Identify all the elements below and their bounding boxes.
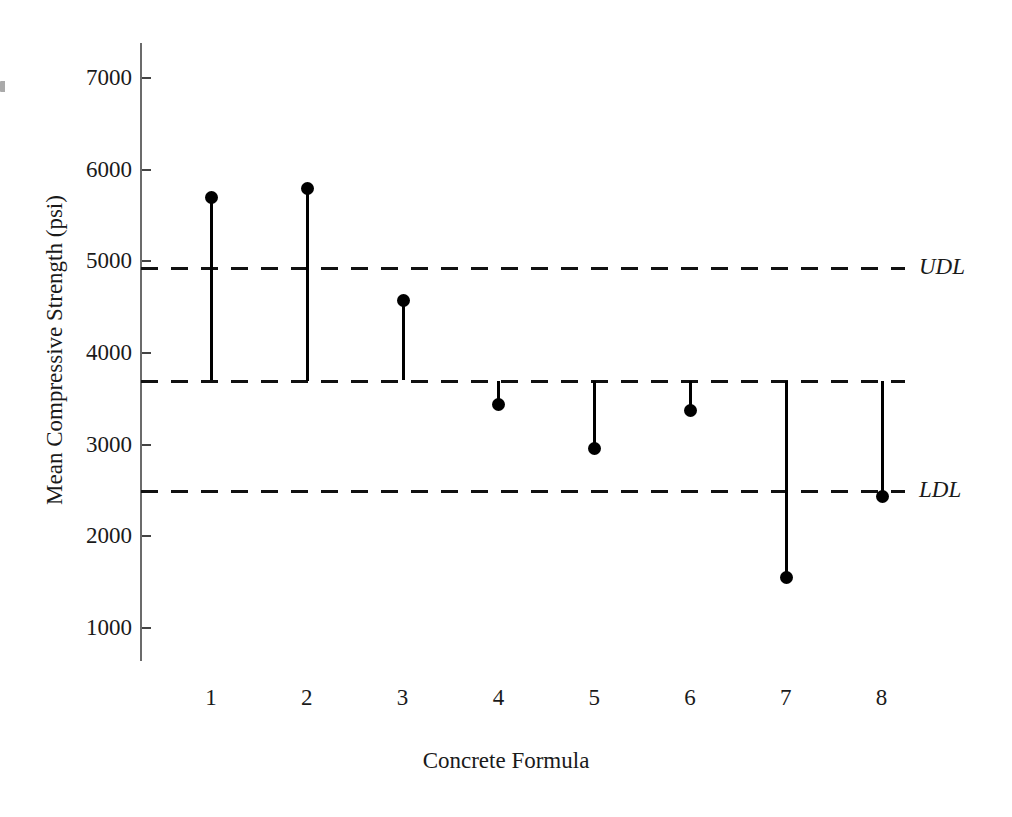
x-tick-label: 5 <box>574 686 614 709</box>
reference-line-label-udl: UDL <box>919 255 965 278</box>
data-point-marker <box>684 404 697 417</box>
y-tick-mark <box>142 352 151 354</box>
x-axis-title: Concrete Formula <box>0 748 1012 774</box>
reference-line-ldl <box>141 490 905 493</box>
y-tick-label-text: 4000 <box>60 341 132 364</box>
data-point-marker <box>588 442 601 455</box>
data-point-marker <box>301 182 314 195</box>
data-point-marker <box>492 398 505 411</box>
x-tick-label: 1 <box>191 686 231 709</box>
y-tick-mark <box>142 169 151 171</box>
y-tick-mark <box>142 535 151 537</box>
y-tick-label-text: 3000 <box>60 433 132 456</box>
x-tick-label: 4 <box>478 686 518 709</box>
y-tick-mark <box>142 444 151 446</box>
y-axis-title: Mean Compressive Strength (psi) <box>42 40 68 660</box>
data-point-marker <box>780 571 793 584</box>
x-tick-label: 3 <box>383 686 423 709</box>
reference-line-udl <box>141 267 905 270</box>
y-tick-mark <box>142 627 151 629</box>
data-point-marker <box>205 191 218 204</box>
y-tick-mark <box>142 260 151 262</box>
data-point-marker <box>397 294 410 307</box>
x-tick-label: 7 <box>766 686 806 709</box>
y-tick-mark <box>142 77 151 79</box>
x-tick-label: 8 <box>862 686 902 709</box>
data-stem <box>593 381 596 448</box>
y-tick-label-text: 1000 <box>60 616 132 639</box>
data-stem <box>306 188 309 381</box>
y-tick-label-text: 6000 <box>60 158 132 181</box>
x-tick-label: 6 <box>670 686 710 709</box>
reference-line-center <box>141 380 905 383</box>
y-tick-label-text: 5000 <box>60 249 132 272</box>
data-stem <box>881 381 884 497</box>
y-tick-label-text: 7000 <box>60 66 132 89</box>
page-crop-artifact <box>0 81 5 92</box>
x-tick-label: 2 <box>287 686 327 709</box>
data-point-marker <box>876 490 889 503</box>
chart-canvas: 7000600050004000300020001000 UDLLDL 1234… <box>0 0 1012 817</box>
reference-line-label-ldl: LDL <box>919 478 961 501</box>
data-stem <box>210 197 213 380</box>
data-stem <box>785 381 788 577</box>
y-tick-label-text: 2000 <box>60 524 132 547</box>
data-stem <box>402 300 405 381</box>
